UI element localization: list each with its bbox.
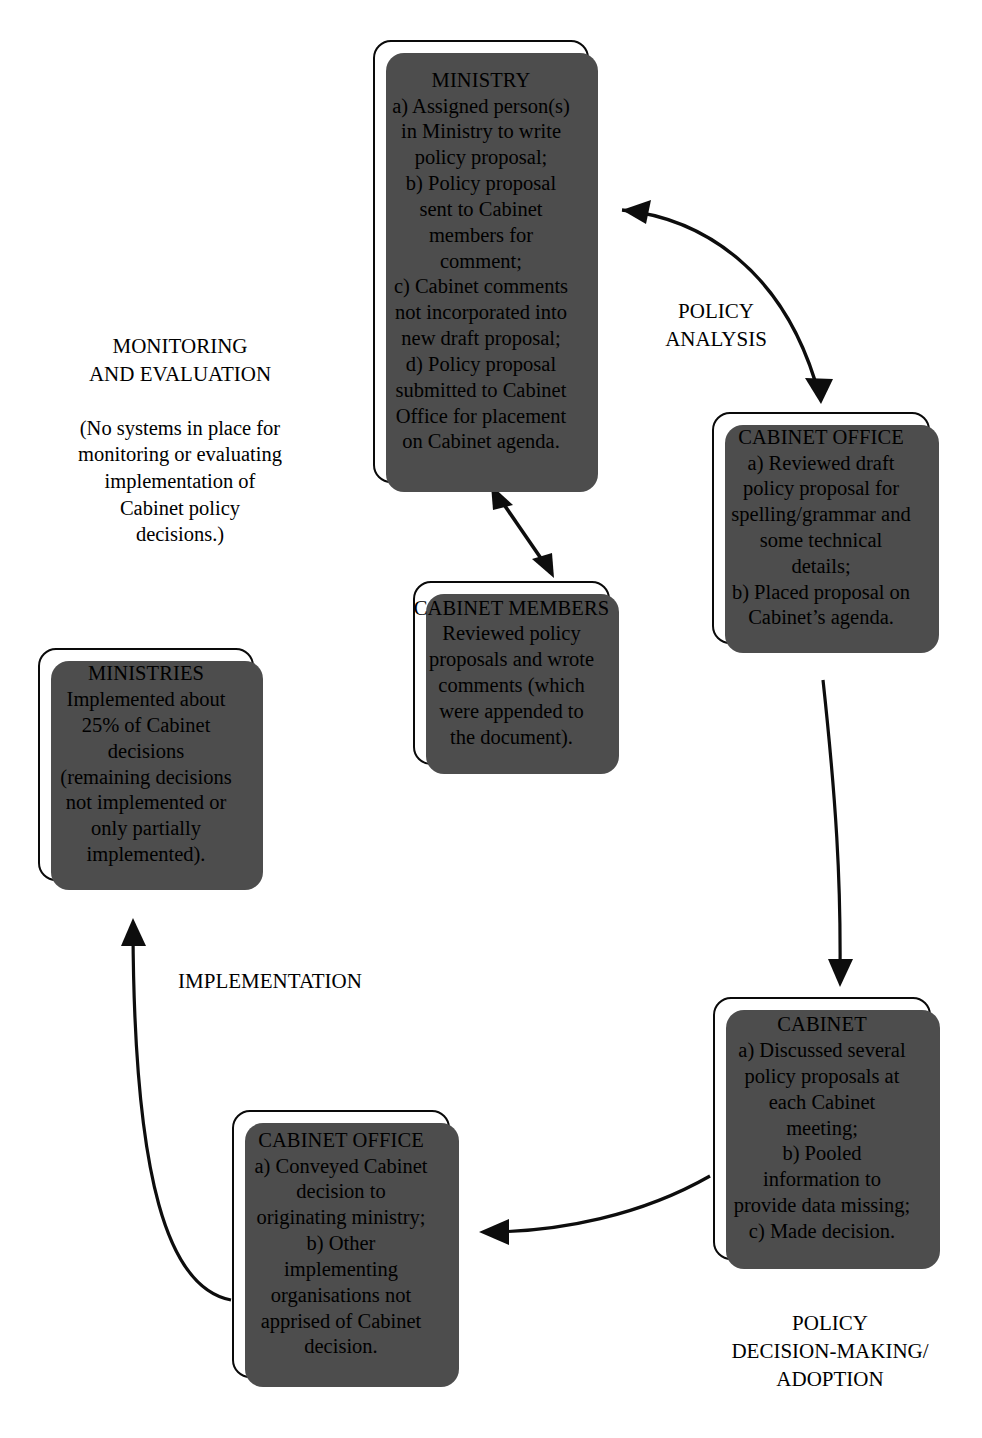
node-line: some technical bbox=[731, 528, 910, 554]
caption-line: POLICY bbox=[680, 1310, 980, 1338]
node-line: not implemented or bbox=[60, 790, 231, 816]
caption-line: implementation of bbox=[20, 468, 340, 495]
node-cabinet-members-body: Reviewed policy proposals and wrote comm… bbox=[429, 621, 594, 750]
caption-line: DECISION-MAKING/ bbox=[680, 1338, 980, 1366]
node-ministries[interactable]: MINISTRIES Implemented about 25% of Cabi… bbox=[38, 648, 254, 881]
node-ministries-body: Implemented about 25% of Cabinet decisio… bbox=[60, 687, 231, 868]
node-line: submitted to Cabinet bbox=[392, 378, 570, 404]
node-line: a) Reviewed draft bbox=[731, 451, 910, 477]
node-cabinet-office-top[interactable]: CABINET OFFICE a) Reviewed draft policy … bbox=[712, 412, 930, 644]
node-line: c) Cabinet comments bbox=[392, 274, 570, 300]
node-line: b) Placed proposal on bbox=[731, 580, 910, 606]
node-line: decision to bbox=[254, 1179, 427, 1205]
node-line: new draft proposal; bbox=[392, 326, 570, 352]
node-ministry-title: MINISTRY bbox=[432, 68, 531, 94]
node-line: on Cabinet agenda. bbox=[392, 429, 570, 455]
caption-line: POLICY bbox=[611, 298, 821, 326]
caption-line: IMPLEMENTATION bbox=[120, 968, 420, 996]
node-line: Cabinet’s agenda. bbox=[731, 605, 910, 631]
node-line: 25% of Cabinet bbox=[60, 713, 231, 739]
caption-line: Cabinet policy bbox=[20, 495, 340, 522]
caption-monitoring-note: (No systems in place for monitoring or e… bbox=[20, 415, 340, 548]
node-line: sent to Cabinet bbox=[392, 197, 570, 223]
node-cabinet-members[interactable]: CABINET MEMBERS Reviewed policy proposal… bbox=[413, 581, 610, 765]
node-ministry[interactable]: MINISTRY a) Assigned person(s) in Minist… bbox=[373, 40, 589, 483]
node-line: b) Policy proposal bbox=[392, 171, 570, 197]
node-line: decisions bbox=[60, 739, 231, 765]
caption-line: decisions.) bbox=[20, 521, 340, 548]
node-line: Implemented about bbox=[60, 687, 231, 713]
node-cabinet[interactable]: CABINET a) Discussed several policy prop… bbox=[713, 997, 931, 1260]
node-cabinet-body: a) Discussed several policy proposals at… bbox=[734, 1038, 911, 1245]
node-cabinet-office-bottom[interactable]: CABINET OFFICE a) Conveyed Cabinet decis… bbox=[232, 1110, 450, 1378]
diagram-canvas: MINISTRY a) Assigned person(s) in Minist… bbox=[0, 0, 982, 1438]
node-line: proposals and wrote bbox=[429, 647, 594, 673]
node-cabinet-title: CABINET bbox=[777, 1012, 867, 1038]
node-ministry-body: a) Assigned person(s) in Ministry to wri… bbox=[392, 94, 570, 456]
node-line: Reviewed policy bbox=[429, 621, 594, 647]
node-line: policy proposals at bbox=[734, 1064, 911, 1090]
node-line: a) Discussed several bbox=[734, 1038, 911, 1064]
node-cabinet-office-top-title: CABINET OFFICE bbox=[738, 425, 904, 451]
connector-ministry-to-cabinet-members bbox=[491, 485, 554, 578]
node-line: d) Policy proposal bbox=[392, 352, 570, 378]
node-line: policy proposal for bbox=[731, 476, 910, 502]
node-line: were appended to bbox=[429, 699, 594, 725]
node-ministries-title: MINISTRIES bbox=[88, 661, 204, 687]
node-line: information to bbox=[734, 1167, 911, 1193]
node-line: only partially bbox=[60, 816, 231, 842]
node-line: comment; bbox=[392, 249, 570, 275]
node-line: b) Pooled bbox=[734, 1141, 911, 1167]
node-line: a) Assigned person(s) bbox=[392, 94, 570, 120]
connector-cabinet-office-to-cabinet bbox=[823, 680, 853, 987]
node-line: spelling/grammar and bbox=[731, 502, 910, 528]
caption-line: monitoring or evaluating bbox=[20, 441, 340, 468]
node-cabinet-office-bottom-title: CABINET OFFICE bbox=[258, 1128, 424, 1154]
node-cabinet-office-bottom-body: a) Conveyed Cabinet decision to originat… bbox=[254, 1154, 427, 1361]
caption-line: MONITORING bbox=[20, 333, 340, 361]
caption-line: AND EVALUATION bbox=[20, 361, 340, 389]
node-line: meeting; bbox=[734, 1116, 911, 1142]
node-line: not incorporated into bbox=[392, 300, 570, 326]
node-line: details; bbox=[731, 554, 910, 580]
caption-line: ANALYSIS bbox=[611, 326, 821, 354]
node-line: c) Made decision. bbox=[734, 1219, 911, 1245]
node-line: (remaining decisions bbox=[60, 765, 231, 791]
node-line: organisations not bbox=[254, 1283, 427, 1309]
node-line: provide data missing; bbox=[734, 1193, 911, 1219]
node-line: each Cabinet bbox=[734, 1090, 911, 1116]
node-line: the document). bbox=[429, 725, 594, 751]
node-line: comments (which bbox=[429, 673, 594, 699]
node-line: b) Other bbox=[254, 1231, 427, 1257]
connector-cabinet-to-cabinet-office-bottom bbox=[479, 1176, 710, 1245]
node-line: implementing bbox=[254, 1257, 427, 1283]
node-line: a) Conveyed Cabinet bbox=[254, 1154, 427, 1180]
node-line: apprised of Cabinet bbox=[254, 1309, 427, 1335]
caption-line: (No systems in place for bbox=[20, 415, 340, 442]
node-line: policy proposal; bbox=[392, 145, 570, 171]
node-line: in Ministry to write bbox=[392, 119, 570, 145]
node-cabinet-members-title: CABINET MEMBERS bbox=[414, 596, 609, 622]
node-line: implemented). bbox=[60, 842, 231, 868]
node-cabinet-office-top-body: a) Reviewed draft policy proposal for sp… bbox=[731, 451, 910, 632]
node-line: originating ministry; bbox=[254, 1205, 427, 1231]
node-line: Office for placement bbox=[392, 404, 570, 430]
caption-policy-decision-making: POLICY DECISION-MAKING/ ADOPTION bbox=[680, 1310, 980, 1394]
caption-policy-analysis: POLICY ANALYSIS bbox=[611, 298, 821, 354]
node-line: members for bbox=[392, 223, 570, 249]
node-line: decision. bbox=[254, 1334, 427, 1360]
caption-monitoring-and-evaluation: MONITORING AND EVALUATION (No systems in… bbox=[20, 333, 340, 548]
caption-implementation: IMPLEMENTATION bbox=[120, 968, 420, 996]
caption-line: ADOPTION bbox=[680, 1366, 980, 1394]
